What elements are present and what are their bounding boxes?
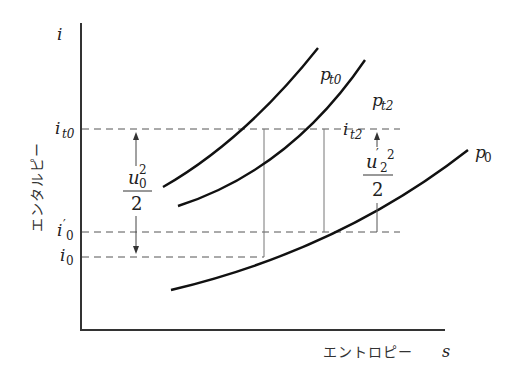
level-label-i-0: i 0 (60, 245, 74, 268)
svg-text:u: u (128, 167, 140, 188)
level-label-i-t0: i t0 (55, 118, 75, 141)
svg-text:i: i (55, 118, 60, 138)
y-axis-label: エンタルピー (29, 142, 45, 232)
x-axis-label: エントロピー s (323, 342, 450, 361)
svg-text:t2: t2 (350, 128, 362, 142)
svg-text:2: 2 (139, 163, 147, 177)
svg-text:i: i (57, 220, 62, 240)
svg-text:′: ′ (376, 147, 379, 161)
svg-text:2: 2 (380, 161, 388, 175)
vertical-connectors (264, 129, 324, 257)
svg-text:2: 2 (387, 148, 395, 162)
svg-text:0: 0 (484, 151, 492, 165)
svg-text:s: s (442, 342, 450, 361)
svg-text:エントロピー: エントロピー (323, 344, 413, 360)
svg-text:2: 2 (131, 193, 142, 214)
curve-label-p-t2: p t2 (372, 90, 393, 113)
svg-text:t0: t0 (329, 73, 342, 87)
svg-text:0: 0 (66, 254, 74, 268)
svg-text:i: i (60, 245, 65, 265)
enthalpy-entropy-diagram: i エンタルピー エントロピー s i t0 i ′ 0 i 0 p t0 (0, 0, 517, 376)
level-label-i-t2: i t2 (343, 119, 362, 142)
u0-kinetic-energy-annotation: u 0 2 2 (123, 136, 152, 250)
level-label-i-prime-0: i ′ 0 (57, 218, 74, 243)
y-axis-symbol: i (57, 24, 62, 44)
pressure-curves (163, 48, 468, 290)
curve-p-t0 (163, 48, 318, 187)
svg-text:0: 0 (66, 229, 74, 243)
svg-text:0: 0 (139, 177, 147, 191)
svg-text:2: 2 (372, 179, 383, 200)
svg-text:i: i (343, 119, 348, 139)
u2-kinetic-energy-annotation: u ′ 2 2 2 (363, 136, 395, 232)
svg-text:t0: t0 (62, 127, 75, 141)
curve-label-p-0: p 0 (475, 142, 492, 165)
svg-text:t2: t2 (381, 99, 393, 113)
curve-label-p-t0: p t0 (320, 64, 342, 87)
curve-p-0 (171, 150, 468, 290)
reference-lines (82, 129, 400, 257)
